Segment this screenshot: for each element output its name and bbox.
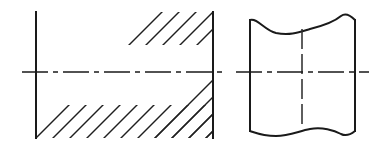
technical-drawing-canvas	[0, 0, 372, 150]
hatch-region-right-wedge	[14, 0, 361, 150]
drawing-svg	[0, 0, 372, 150]
sectional-view-figure	[14, 0, 361, 150]
hatch-region-bottom-band	[14, 0, 344, 150]
broken-view-figure	[236, 15, 369, 136]
broken-view-bottom-break-line	[250, 128, 355, 136]
